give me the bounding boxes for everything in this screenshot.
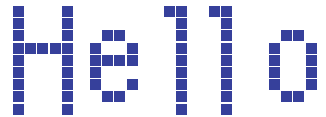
pixel-cell <box>293 30 304 41</box>
pixel-cell <box>306 55 317 66</box>
pixel-cell <box>269 43 280 54</box>
glyph-layer <box>0 0 326 117</box>
pixel-cell <box>269 79 280 90</box>
pixel-cell <box>293 91 304 102</box>
glyph-o <box>0 0 326 117</box>
pixel-cell <box>306 79 317 90</box>
pixel-cell <box>269 67 280 78</box>
pixel-cell <box>306 43 317 54</box>
pixel-cell <box>281 91 292 102</box>
pixel-cell <box>269 55 280 66</box>
pixel-cell <box>281 30 292 41</box>
pixel-text-canvas <box>0 0 326 117</box>
pixel-cell <box>306 67 317 78</box>
